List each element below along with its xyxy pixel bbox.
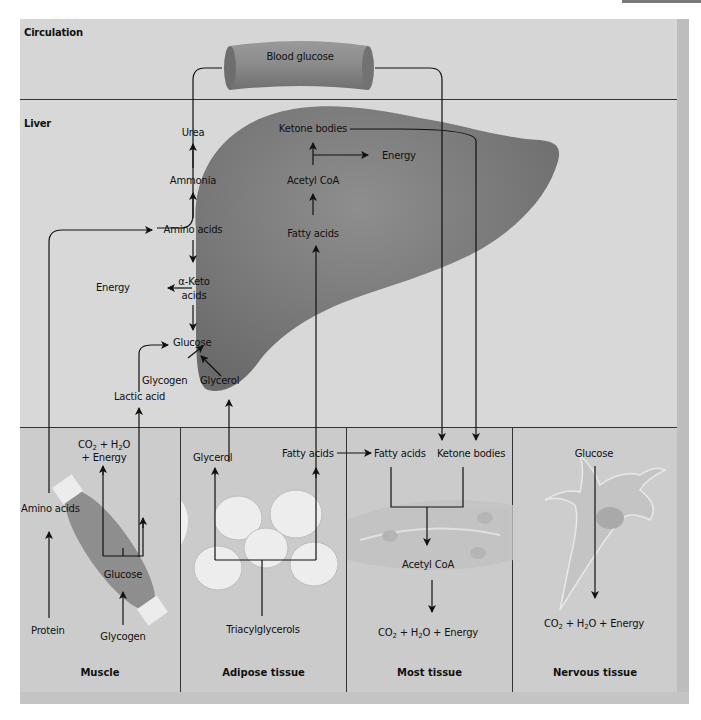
adipose-glycerol-label: Glycerol	[193, 452, 232, 463]
urea-label: Urea	[182, 127, 205, 138]
muscle-amino-acids-label: Amino acids	[21, 503, 80, 514]
most-products-label: CO2 + H2O + Energy	[378, 627, 478, 640]
alpha-keto-label: α-Keto	[178, 276, 209, 287]
most-fatty-acids-label: Fatty acids	[374, 448, 426, 459]
adipose-fatty-acids-label: Fatty acids	[282, 448, 334, 459]
pathway-diagram	[0, 0, 701, 720]
muscle-glucose-label: Glucose	[104, 569, 142, 580]
blood-vessel-icon	[224, 41, 374, 90]
ammonia-label: Ammonia	[170, 175, 216, 186]
liver-fatty-acids-label: Fatty acids	[287, 228, 339, 239]
most-acetyl-coa-label: Acetyl CoA	[402, 559, 454, 570]
liver-icon	[195, 106, 559, 391]
triacylglycerols-label: Triacylglycerols	[226, 624, 299, 635]
liver-energy-left-label: Energy	[96, 282, 130, 293]
muscle-glycogen-label: Glycogen	[100, 631, 145, 642]
liver-glycerol-label: Glycerol	[200, 375, 239, 386]
liver-ketone-bodies-label: Ketone bodies	[279, 123, 347, 134]
liver-glucose-label: Glucose	[173, 337, 211, 348]
liver-acetyl-coa-label: Acetyl CoA	[287, 175, 339, 186]
lactic-acid-label: Lactic acid	[114, 391, 165, 402]
liver-energy-right-label: Energy	[382, 150, 416, 161]
liver-glycogen-label: Glycogen	[142, 375, 187, 386]
most-ketone-bodies-label: Ketone bodies	[437, 448, 505, 459]
liver-amino-acids-label: Amino acids	[164, 224, 223, 235]
muscle-plus-energy-label: + Energy	[82, 452, 127, 463]
neuron-icon	[545, 455, 665, 610]
muscle-icon	[44, 469, 176, 632]
nervous-glucose-label: Glucose	[575, 448, 613, 459]
nervous-products-label: CO2 + H2O + Energy	[544, 618, 644, 631]
blood-glucose-label: Blood glucose	[266, 51, 333, 62]
protein-label: Protein	[31, 625, 65, 636]
adipose-cells-icon	[181, 490, 338, 590]
acids-label: acids	[182, 290, 207, 301]
